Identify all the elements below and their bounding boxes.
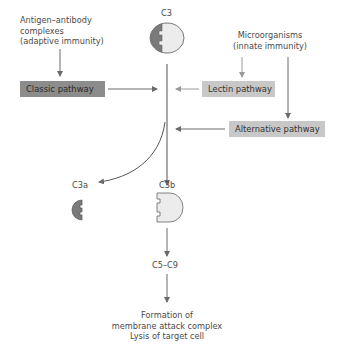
diagram-connectors — [0, 0, 337, 356]
c3-molecule-icon — [150, 23, 184, 53]
c5-c9-label: C5–C9 — [152, 260, 178, 271]
c3-label: C3 — [161, 8, 172, 19]
c3a-fragment-icon — [72, 200, 82, 220]
c3a-label: C3a — [72, 180, 88, 191]
adaptive-line-3: (adaptive immunity) — [20, 36, 104, 47]
c3b-label: C3b — [159, 180, 175, 191]
outcome-line-2: membrane attack complex — [107, 321, 227, 332]
alternative-pathway-box: Alternative pathway — [229, 121, 325, 137]
outcome-line-3: Lysis of target cell — [107, 331, 227, 342]
outcome-line-1: Formation of — [107, 310, 227, 321]
innate-line-1: Microorganisms — [228, 30, 312, 41]
outcome-label: Formation of membrane attack complex Lys… — [107, 310, 227, 342]
c3-to-c3a-curve — [99, 122, 165, 182]
classic-pathway-box: Classic pathway — [20, 81, 105, 97]
adaptive-line-1: Antigen–antibody — [20, 15, 104, 26]
lectin-pathway-box: Lectin pathway — [202, 81, 275, 97]
adaptive-line-2: complexes — [20, 26, 104, 37]
adaptive-source-label: Antigen–antibody complexes (adaptive imm… — [20, 15, 104, 47]
innate-line-2: (innate immunity) — [228, 41, 312, 52]
innate-source-label: Microorganisms (innate immunity) — [228, 30, 312, 51]
c3b-fragment-icon — [157, 193, 183, 222]
